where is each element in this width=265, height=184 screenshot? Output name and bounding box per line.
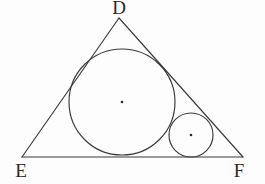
vertex-label-e: E [15,160,27,181]
small-circle-center-dot [190,134,193,137]
geometry-figure: D E F [0,0,265,184]
geometry-canvas: D E F [0,0,265,184]
vertex-label-f: F [234,160,245,181]
inscribed-circle-center-dot [121,101,124,104]
figure-background [0,0,265,184]
vertex-label-d: D [112,0,126,18]
